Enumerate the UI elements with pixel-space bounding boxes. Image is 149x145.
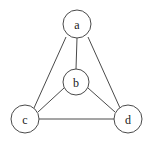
graph-node-a-label: a — [74, 18, 80, 32]
graph-node-c[interactable]: c — [11, 105, 39, 133]
graph-node-d-label: d — [125, 113, 131, 127]
graph-node-a[interactable]: a — [63, 10, 91, 38]
graph-edge-a-b — [76, 38, 77, 69]
graph-edge-a-d — [88, 37, 120, 108]
graph-canvas: a b c d — [0, 0, 149, 145]
graph-node-b-label: b — [73, 76, 79, 90]
graph-node-b[interactable]: b — [63, 69, 89, 95]
graph-node-c-label: c — [22, 113, 27, 127]
graph-edge-a-c — [34, 37, 66, 108]
graph-figure: a b c d — [0, 0, 149, 145]
graph-edge-b-d — [88, 88, 115, 112]
graph-node-d[interactable]: d — [114, 105, 142, 133]
